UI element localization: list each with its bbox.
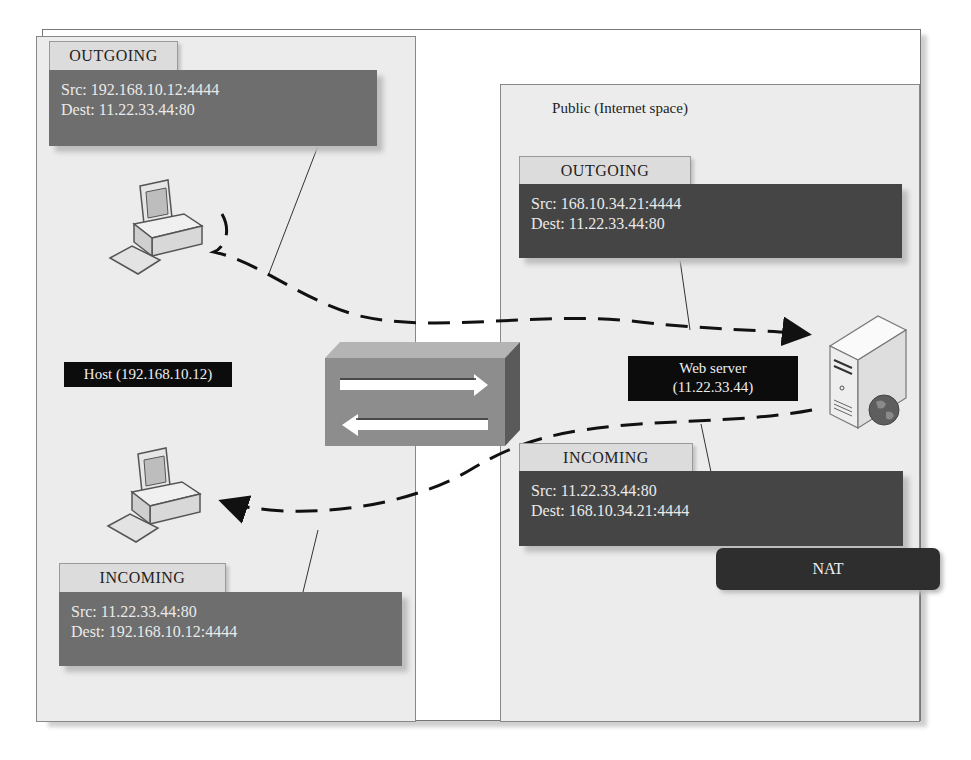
packet-incoming-public: Src: 11.22.33.44:80 Dest: 168.10.34.21:4… xyxy=(519,471,903,546)
globe-icon xyxy=(869,395,899,425)
packet-src: Src: 11.22.33.44:80 xyxy=(531,481,891,501)
incoming-tab-public: INCOMING xyxy=(519,443,693,473)
nat-label: NAT xyxy=(716,548,940,590)
packet-dest: Dest: 168.10.34.21:4444 xyxy=(531,501,891,521)
web-server-icon xyxy=(0,0,971,760)
